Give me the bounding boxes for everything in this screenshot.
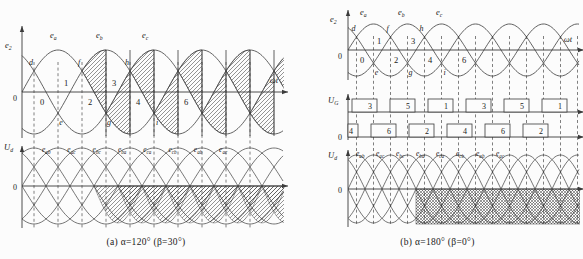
crossing-label-upper: d	[29, 58, 34, 67]
pulse-number: 6	[387, 127, 391, 136]
tick-number: 3	[411, 36, 415, 46]
tick-number: 6	[184, 97, 188, 107]
gate-pulse	[504, 99, 529, 112]
segment-label: ebc	[93, 145, 102, 155]
segment-label: eab	[476, 149, 485, 159]
pulse-number: 1	[444, 102, 448, 111]
crossing-label-upper: h	[125, 58, 129, 67]
gate-pulse	[409, 124, 434, 137]
segment-label: ebc	[396, 149, 405, 159]
pulse-number: 2	[539, 127, 543, 136]
axis-label-wt: ωt	[270, 75, 279, 85]
gate-pulse	[390, 99, 415, 112]
curve-label: ea	[50, 30, 57, 41]
axis-label-e2: e2	[5, 40, 12, 51]
gate-pulse	[523, 124, 548, 137]
tick-number: 4	[136, 97, 141, 107]
tick-number: 1	[377, 36, 381, 46]
tick-number: 2	[88, 97, 92, 107]
axis-label-wt: ωt	[564, 34, 573, 44]
segment-label: eab	[356, 149, 365, 159]
curve-label: ea	[360, 7, 367, 18]
segment-label: eac	[219, 145, 228, 155]
tick-number: 0	[40, 97, 44, 107]
segment-label: eac	[496, 149, 505, 159]
segment-label: eac	[376, 149, 385, 159]
crossing-label-lower: i	[443, 68, 445, 77]
segment-label: eba	[416, 149, 425, 159]
gate-pulse	[485, 124, 510, 137]
pulse-number: 5	[520, 102, 524, 111]
pulse-number: 6	[501, 127, 505, 136]
origin-label: 0	[13, 183, 17, 192]
curve-label: ec	[142, 30, 149, 41]
crossing-label-upper: d	[352, 24, 357, 33]
panel-a-caption: (a) α=120° (β=30°)	[0, 237, 292, 247]
curve-label: eb	[398, 7, 405, 18]
segment-label: ecb	[456, 149, 465, 159]
pulse-number: 4	[349, 127, 353, 136]
origin-label: 0	[338, 186, 342, 195]
pulse-number: 4	[463, 127, 467, 136]
pulse-number: 2	[425, 127, 429, 136]
tick-number: 6	[462, 55, 466, 65]
tick-number: 0	[360, 55, 364, 65]
crossing-label-lower: e	[375, 68, 379, 77]
pulse-number: 3	[368, 102, 372, 111]
panel-a: e2ωt0eaebecdfhegi012346Ud0eabeacebcebaec…	[0, 0, 292, 259]
crossing-label-lower: g	[107, 118, 111, 127]
gate-pulse	[352, 99, 377, 112]
pulse-number: 3	[482, 102, 486, 111]
curve-label: eb	[96, 30, 103, 41]
segment-label: eca	[143, 145, 152, 155]
crossing-label-lower: g	[409, 68, 413, 77]
panel-b-caption: (b) α=180° (β=0°)	[292, 237, 583, 247]
gate-pulse	[542, 99, 567, 112]
origin-label: 0	[338, 52, 342, 61]
gate-pulse	[428, 99, 453, 112]
gate-pulse	[466, 99, 491, 112]
crossing-label-upper: f	[78, 58, 82, 67]
segment-label: eba	[118, 145, 127, 155]
crossing-label-lower: e	[59, 118, 63, 127]
gate-pulse	[371, 124, 396, 137]
axis-label-e2: e2	[330, 14, 337, 25]
origin-label: 0	[338, 133, 342, 142]
panel-b: e2ωt0eaebecdfhegi012346UG0351351462462Ud…	[292, 0, 583, 259]
waveform-figure: e2ωt0eaebecdfhegi012346Ud0eabeacebcebaec…	[0, 0, 583, 259]
tick-number: 3	[112, 78, 116, 88]
pulse-number: 1	[558, 102, 562, 111]
origin-label: 0	[13, 94, 17, 103]
crossing-label-lower: i	[156, 118, 158, 127]
crossing-label-upper: f	[386, 24, 390, 33]
pulse-number: 5	[406, 102, 410, 111]
gate-pulse	[447, 124, 472, 137]
segment-label: eab	[42, 145, 51, 155]
axis-label-ud: Ud	[4, 142, 13, 153]
panel-a-plots: e2ωt0eaebecdfhegi012346Ud0eabeacebcebaec…	[0, 0, 292, 236]
axis-label-ud: Ud	[328, 150, 337, 161]
segment-label: eca	[436, 149, 445, 159]
crossing-label-upper: h	[420, 24, 424, 33]
segment-label: ecb	[169, 145, 178, 155]
curve-label: ec	[436, 7, 443, 18]
tick-number: 1	[64, 78, 68, 88]
segment-label: eac	[67, 145, 76, 155]
segment-label: eab	[194, 145, 203, 155]
tick-number: 4	[428, 55, 433, 65]
axis-label-ug: UG	[328, 95, 339, 106]
tick-number: 2	[394, 55, 398, 65]
panel-b-plots: e2ωt0eaebecdfhegi012346UG0351351462462Ud…	[292, 0, 583, 236]
